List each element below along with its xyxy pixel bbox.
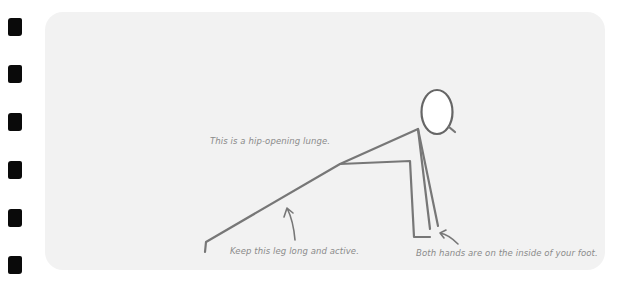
caption-leg-active: Keep this leg long and active. — [230, 246, 359, 256]
back-leg — [205, 129, 418, 252]
chin-mark — [449, 127, 455, 132]
front-leg — [340, 161, 430, 237]
arrow-hands-icon — [440, 230, 458, 244]
caption-hip-opening: This is a hip-opening lunge. — [210, 136, 330, 146]
head — [422, 90, 453, 134]
caption-hands-inside: Both hands are on the inside of your foo… — [416, 248, 598, 258]
arrow-up-icon — [284, 208, 295, 240]
